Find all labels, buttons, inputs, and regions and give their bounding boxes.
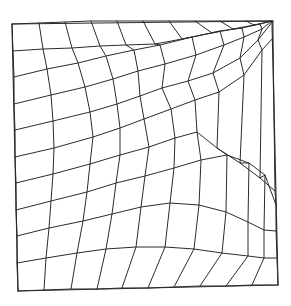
mesh-row-line xyxy=(16,155,276,210)
mesh-column-line xyxy=(39,23,54,290)
mesh-column-line xyxy=(169,21,201,287)
mesh-row-line xyxy=(15,21,273,130)
mesh-column-lines xyxy=(12,21,278,291)
mesh-row-line xyxy=(17,203,276,236)
mesh-row-lines xyxy=(12,21,278,291)
mesh-row-line xyxy=(17,247,277,263)
mesh-column-line xyxy=(65,22,93,289)
mesh-diagram xyxy=(0,0,291,306)
mesh-row-line xyxy=(14,21,272,104)
mesh-boundary xyxy=(12,21,278,291)
mesh-row-line xyxy=(16,132,275,191)
mesh-column-line xyxy=(246,21,265,285)
mesh-row-line xyxy=(13,21,272,51)
